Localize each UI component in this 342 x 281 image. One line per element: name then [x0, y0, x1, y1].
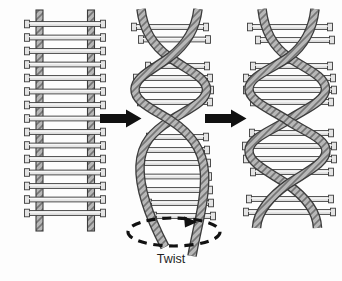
- twist-label: Twist: [157, 252, 186, 266]
- stage-partially-twisted-ladder: Twist: [128, 9, 220, 266]
- twist-diagram-figure: Twist: [0, 0, 342, 281]
- diagram-canvas: Twist: [0, 0, 342, 281]
- stage-straight-ladder: [25, 10, 106, 231]
- stage-twisted-double-helix: [243, 9, 337, 228]
- right-arrow-icon: [205, 110, 247, 128]
- dashed-rotation-arrow-icon: [128, 217, 220, 247]
- right-arrow-icon: [100, 110, 142, 128]
- ladder-rungs: [25, 20, 106, 217]
